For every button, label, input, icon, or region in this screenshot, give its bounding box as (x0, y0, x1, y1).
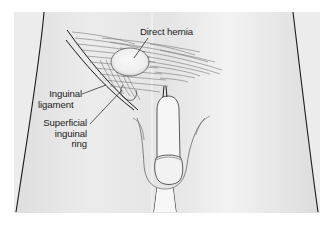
hernia-illustration: Direct hernia Inguinal ligament Superfic… (0, 0, 333, 226)
direct-hernia-bulge (111, 48, 149, 76)
label-inguinal-ligament: Inguinal ligament (38, 89, 82, 110)
thigh-gap-fill (154, 188, 176, 212)
label-superficial-inguinal-ring: Superficial inguinal ring (30, 118, 87, 150)
label-superficial-ring-line3: ring (30, 139, 87, 150)
penis-shaft (157, 96, 180, 158)
label-superficial-ring-line1: Superficial (30, 118, 87, 129)
label-direct-hernia: Direct hernia (140, 27, 193, 38)
label-inguinal-ligament-line1: Inguinal (38, 89, 82, 100)
label-inguinal-ligament-line2: ligament (38, 100, 82, 111)
penis-glans (155, 155, 183, 185)
